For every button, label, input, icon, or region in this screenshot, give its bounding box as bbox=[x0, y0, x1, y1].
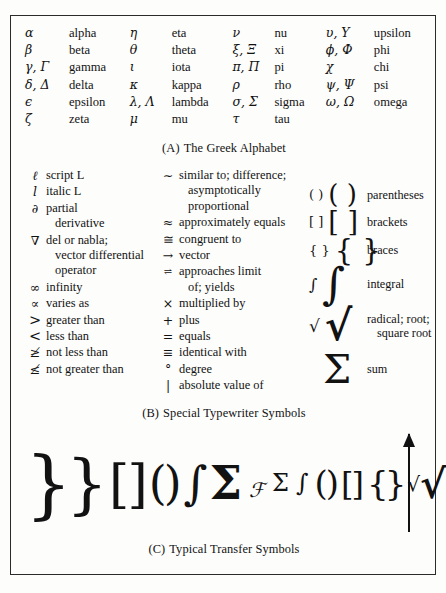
delimiter-label: braces bbox=[367, 243, 398, 257]
symbol-entry: ° degree bbox=[157, 362, 309, 377]
symbol-description: absolute value of bbox=[179, 378, 264, 393]
greek-name: sigma bbox=[274, 94, 304, 111]
not-greater-than-icon: ≰ bbox=[24, 362, 46, 377]
greek-entry: υ, Υ upsilon bbox=[326, 24, 423, 41]
symbol-description-cont2: operator bbox=[46, 263, 144, 278]
figure-page: α alpha β beta γ, Γ gamma δ, Δ delta bbox=[0, 0, 446, 593]
greek-entry: θ theta bbox=[130, 41, 233, 58]
vertical-up-arrow-icon bbox=[408, 434, 410, 532]
symbol-description: less than bbox=[46, 329, 89, 344]
greek-symbol: ξ, Ξ bbox=[232, 41, 274, 58]
symbol-description: identical with bbox=[179, 345, 247, 360]
brace-glyph: } bbox=[25, 454, 72, 515]
braces-small-icon: { } bbox=[309, 243, 330, 258]
panel-b-column-2: ∼ similar to; difference; asymptotically… bbox=[157, 168, 309, 395]
greek-entry: σ, Σ sigma bbox=[232, 93, 325, 110]
sigma-small-glyph: Σ bbox=[272, 474, 289, 494]
greek-symbol: π, Π bbox=[232, 58, 274, 75]
greek-entry: δ, Δ delta bbox=[25, 76, 130, 93]
operator-label: integral bbox=[367, 277, 404, 291]
caption-b: (B)Special Typewriter Symbols bbox=[11, 406, 437, 421]
congruent-to-icon: ≅ bbox=[157, 232, 179, 247]
script-f-glyph: ℱ bbox=[249, 482, 265, 498]
symbol-entry: ≰ not greater than bbox=[24, 362, 157, 377]
delimiter-entry: ( ) ( ) parentheses bbox=[309, 182, 424, 208]
greek-grid: α alpha β beta γ, Γ gamma δ, Δ delta bbox=[11, 24, 437, 127]
paren-close-glyph: ) bbox=[326, 470, 339, 498]
integral-pair: ∫ ∫ bbox=[309, 264, 367, 304]
symbol-description-line: partial bbox=[46, 201, 78, 215]
greek-column-2: η eta θ theta ι iota κ kappa bbox=[130, 24, 233, 127]
symbol-description-line: similar to; difference; bbox=[179, 168, 286, 182]
greek-entry: τ tau bbox=[232, 110, 325, 127]
greek-entry: β beta bbox=[25, 41, 130, 58]
radical-small-icon: √ bbox=[309, 316, 320, 336]
greek-name: upsilon bbox=[374, 25, 411, 42]
symbol-entry: ∇ del or nabla; vector differential oper… bbox=[24, 233, 157, 279]
greek-entry: ϵ epsilon bbox=[25, 93, 130, 110]
operator-label: sum bbox=[367, 362, 387, 376]
greek-symbol: ν bbox=[232, 24, 274, 41]
symbol-description: del or nabla; vector differential operat… bbox=[46, 233, 144, 279]
symbol-entry: × multiplied by bbox=[157, 296, 309, 311]
greek-name: epsilon bbox=[69, 94, 105, 111]
symbol-entry: < less than bbox=[24, 329, 157, 344]
operator-entry: Σ sum bbox=[309, 348, 424, 390]
greek-symbol: χ bbox=[326, 58, 374, 75]
greek-entry: ζ zeta bbox=[25, 110, 130, 127]
greek-name: gamma bbox=[69, 59, 106, 76]
symbol-description: script L bbox=[46, 168, 84, 183]
greek-name: zeta bbox=[69, 111, 89, 128]
partial-derivative-icon: ∂ bbox=[24, 201, 46, 216]
greek-name: rho bbox=[274, 77, 291, 94]
greek-entry: κ kappa bbox=[130, 76, 233, 93]
identical-with-icon: ≡ bbox=[157, 345, 179, 360]
panel-b-special-typewriter-symbols: ℓ script L l italic L ∂ partial derivati… bbox=[11, 168, 437, 404]
symbol-description: infinity bbox=[46, 280, 82, 295]
delimiter-entry: [ ] [ ] brackets bbox=[309, 208, 424, 236]
integral-small-icon: ∫ bbox=[309, 275, 317, 294]
caption-a-tag: (A) bbox=[162, 141, 180, 155]
greek-symbol: ι bbox=[130, 58, 172, 75]
greek-entry: ψ, Ψ psi bbox=[326, 76, 423, 93]
greek-symbol: υ, Υ bbox=[326, 24, 374, 41]
greek-entry: γ, Γ gamma bbox=[25, 58, 130, 75]
brackets-pair: [ ] [ ] bbox=[309, 210, 367, 234]
symbol-description: multiplied by bbox=[179, 296, 245, 311]
greek-symbol: β bbox=[25, 41, 69, 58]
proportional-to-icon: ∝ bbox=[24, 296, 46, 311]
sum-sigma-icon: Σ bbox=[323, 351, 351, 387]
plus-icon: + bbox=[157, 313, 179, 328]
greek-symbol: τ bbox=[232, 110, 274, 127]
symbol-description-cont: of; yields bbox=[179, 280, 261, 295]
symbol-description-line: del or nabla; bbox=[46, 233, 108, 247]
greek-name: kappa bbox=[172, 77, 202, 94]
vector-arrow-icon: → bbox=[157, 248, 179, 263]
not-less-than-icon: ≱ bbox=[24, 345, 46, 360]
greater-than-icon: > bbox=[24, 313, 46, 328]
symbol-entry: + plus bbox=[157, 313, 309, 328]
symbol-entry: | absolute value of bbox=[157, 378, 309, 393]
greek-symbol: ρ bbox=[232, 76, 274, 93]
symbol-entry: ≱ not less than bbox=[24, 345, 157, 360]
greek-entry: ϕ, Φ phi bbox=[326, 41, 423, 58]
symbol-description-cont: asymptotically bbox=[179, 183, 286, 198]
italic-l-icon: l bbox=[24, 184, 46, 199]
operator-label-cont: square root bbox=[367, 326, 432, 340]
greek-symbol: κ bbox=[130, 76, 172, 93]
greek-symbol: α bbox=[25, 24, 69, 41]
transfer-symbol-strip: } } [ ] ( ) ∫ Σ ℱ Σ ∫ ( ) [ ] { } √ √ bbox=[11, 428, 437, 540]
bracket-close-glyph: ] bbox=[352, 471, 364, 497]
symbol-entry: ≈ approximately equals bbox=[157, 215, 309, 230]
caption-a-text: The Greek Alphabet bbox=[184, 141, 286, 155]
greek-symbol: ω, Ω bbox=[326, 93, 374, 110]
greek-name: lambda bbox=[172, 94, 209, 111]
greek-name: delta bbox=[69, 77, 93, 94]
greek-symbol: η bbox=[130, 24, 172, 41]
greek-symbol: λ, Λ bbox=[130, 93, 172, 110]
greek-name: chi bbox=[374, 59, 389, 76]
panel-b-column-1: ℓ script L l italic L ∂ partial derivati… bbox=[24, 168, 157, 395]
operator-entry: ∫ ∫ integral bbox=[309, 264, 424, 304]
symbol-description: varies as bbox=[46, 296, 89, 311]
symbol-description-cont: derivative bbox=[46, 216, 105, 231]
